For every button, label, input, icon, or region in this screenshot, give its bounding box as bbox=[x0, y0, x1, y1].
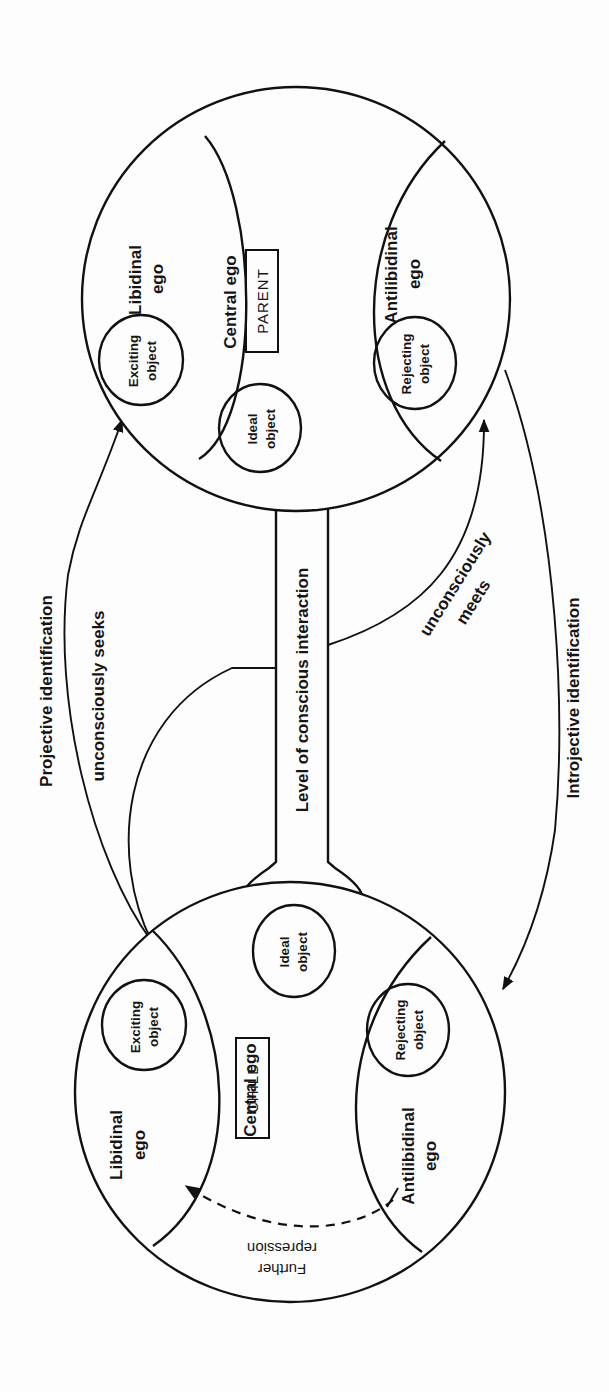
object-relations-diagram: Libidinal ego Central ego Antilibidinal … bbox=[0, 0, 609, 1392]
parent-rejecting-label: Rejecting bbox=[399, 334, 414, 395]
unconsciously-seeks-label: unconsciously seeks bbox=[89, 610, 108, 781]
projective-identification-label: Projective identification bbox=[37, 595, 56, 787]
parent-ideal-label-2: object bbox=[263, 409, 278, 449]
further-repression-label-2: repression bbox=[247, 1240, 317, 1257]
parent-libidinal-label: Libidinal bbox=[126, 245, 145, 315]
introjective-identification-label: Introjective identification bbox=[564, 597, 583, 798]
child-libidinal-label-2: ego bbox=[130, 1130, 149, 1160]
parent-ideal-label: Ideal bbox=[245, 414, 260, 445]
child-antilibidinal-label-2: ego bbox=[421, 1141, 440, 1171]
parent-libidinal-label-2: ego bbox=[148, 264, 167, 294]
parent-central-ego-label: Central ego bbox=[221, 255, 240, 349]
child-ideal-label: Ideal bbox=[277, 937, 292, 968]
child-role-label: CHILD bbox=[244, 1063, 261, 1113]
child-libidinal-label: Libidinal bbox=[107, 1110, 126, 1180]
parent-exciting-label: Exciting bbox=[126, 335, 141, 388]
child-exciting-label: Exciting bbox=[128, 1001, 143, 1054]
introjective-identification-arrow bbox=[503, 370, 559, 989]
child-rejecting-label: Rejecting bbox=[393, 1000, 408, 1061]
child-antilibidinal-label: Antilibidinal bbox=[399, 1107, 418, 1204]
child-exciting-label-2: object bbox=[146, 1007, 161, 1047]
parent-exciting-label-2: object bbox=[144, 341, 159, 381]
parent-rejecting-label-2: object bbox=[417, 344, 432, 384]
conscious-interaction-label: Level of conscious interaction bbox=[293, 568, 312, 813]
parent-psyche bbox=[82, 87, 510, 511]
child-ideal-label-2: object bbox=[295, 932, 310, 972]
projective-identification-arrow bbox=[64, 420, 152, 942]
parent-antilibidinal-label: Antilibidinal bbox=[382, 226, 401, 323]
further-repression-label: Further bbox=[258, 1261, 306, 1278]
child-rejecting-label-2: object bbox=[411, 1010, 426, 1050]
parent-role-label: PARENT bbox=[254, 268, 271, 334]
parent-antilibidinal-label-2: ego bbox=[405, 259, 424, 289]
